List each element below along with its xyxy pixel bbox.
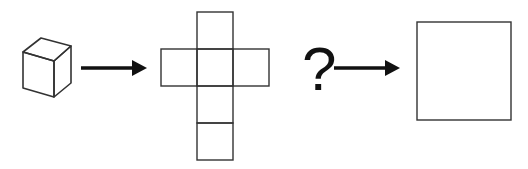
result-square bbox=[417, 22, 511, 120]
cube-icon bbox=[23, 38, 71, 97]
arrow-right-icon bbox=[81, 60, 147, 76]
cube-net bbox=[161, 12, 269, 160]
arrow-right-icon bbox=[334, 60, 400, 76]
question-mark: ? bbox=[302, 38, 336, 100]
diagram-canvas bbox=[0, 0, 528, 169]
